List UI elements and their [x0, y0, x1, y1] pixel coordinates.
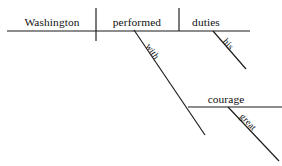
word-label-preposition: with: [144, 41, 162, 61]
word-label-subject: Washington: [24, 16, 79, 28]
word-label-modifier-great: great: [238, 112, 259, 133]
word-label-modifier-his: his: [221, 37, 236, 52]
sentence-diagram: Washington performed duties with courage…: [0, 0, 282, 166]
sentence-diagram-canvas: Washington performed duties with courage…: [0, 0, 282, 166]
modifier-slant-line-great: [228, 107, 279, 161]
word-label-prep-object: courage: [208, 93, 245, 105]
word-label-verb: performed: [113, 16, 162, 28]
word-label-object: duties: [192, 16, 220, 28]
